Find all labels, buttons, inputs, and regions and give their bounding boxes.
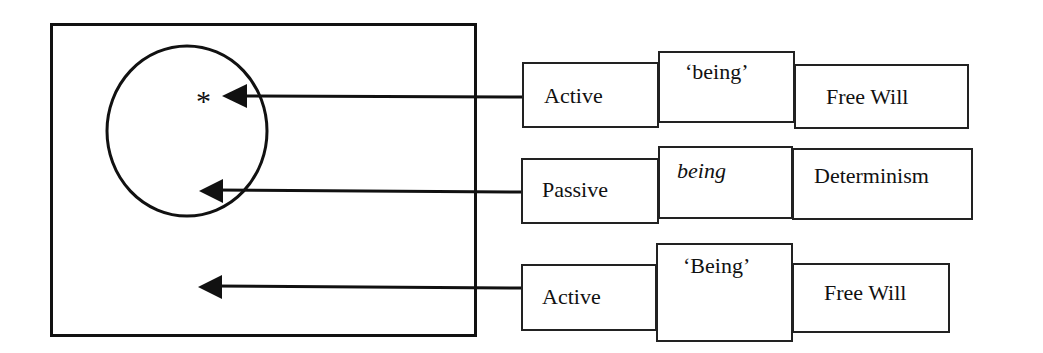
arrowhead-icon (222, 84, 247, 108)
cell-row3-mode: Active (521, 264, 657, 331)
cell-text: Active (542, 286, 601, 308)
cell-row2-outcome: Determinism (792, 148, 973, 220)
cell-text: Free Will (824, 282, 906, 304)
cell-row2-being: being (658, 146, 793, 219)
cell-row3-being: ‘Being’ (656, 243, 793, 342)
cell-text: Free Will (826, 86, 908, 108)
cell-text: ‘being’ (685, 61, 749, 83)
cell-text: being (677, 160, 726, 182)
cell-text: ‘Being’ (683, 255, 750, 277)
cell-text: Active (544, 85, 603, 107)
arrow-row-1 (222, 84, 522, 108)
cell-row1-outcome: Free Will (794, 64, 969, 129)
arrowhead-icon (199, 179, 223, 203)
arrowhead-icon (198, 275, 222, 299)
asterisk-marker: * (196, 86, 211, 116)
arrow-row-2 (199, 179, 521, 203)
cell-text: Passive (542, 179, 608, 201)
cell-row2-mode: Passive (521, 158, 659, 224)
arrow-row-3 (198, 275, 521, 299)
cell-row1-mode: Active (522, 62, 659, 128)
cell-text: Determinism (814, 165, 929, 187)
cell-row3-outcome: Free Will (792, 263, 950, 333)
cell-row1-being: ‘being’ (658, 51, 795, 123)
